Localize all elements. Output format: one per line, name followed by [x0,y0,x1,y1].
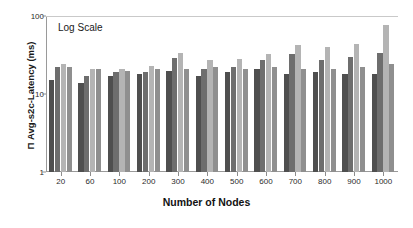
latency-bar-chart: Π Avg-s2c-Latency (ms) 110100 Log Scale … [0,0,413,228]
bar [137,74,142,172]
bar [90,69,95,172]
bar-group [78,16,101,172]
bar [313,72,318,172]
x-tick-label: 600 [259,177,272,186]
x-tick-label: 800 [318,177,331,186]
bar-group [166,16,189,172]
y-tick-label: 100 [0,12,44,21]
x-tick-mark [354,172,355,176]
bar [78,83,83,172]
bar [67,67,72,172]
bar [372,74,377,172]
bar-group [372,16,395,172]
bar [225,72,230,172]
bar-group [108,16,131,172]
bar-group [137,16,160,172]
x-tick-mark [266,172,267,176]
bar [254,69,259,172]
x-tick-mark [149,172,150,176]
bar-group [284,16,307,172]
bar [260,60,265,172]
bar [319,60,324,172]
x-tick-mark [237,172,238,176]
bar [360,67,365,172]
bar [49,80,54,172]
bar-group [225,16,248,172]
bar [201,69,206,172]
x-tick-mark [119,172,120,176]
x-tick-label: 700 [289,177,302,186]
y-tick-label: 1 [0,168,44,177]
bar [96,69,101,172]
x-tick-label: 20 [56,177,65,186]
x-axis-title: Number of Nodes [0,196,413,208]
bar-group [342,16,365,172]
y-tick-label: 10 [0,90,44,99]
x-tick-mark [295,172,296,176]
bar [55,67,60,172]
bar [325,47,330,172]
x-tick-label: 60 [86,177,95,186]
x-tick-mark [178,172,179,176]
bar [272,67,277,172]
x-tick-label: 300 [171,177,184,186]
bar [284,74,289,172]
bar [113,72,118,172]
bar [348,57,353,172]
bar [84,76,89,172]
bar [143,72,148,172]
x-tick-label: 400 [201,177,214,186]
x-tick-mark [207,172,208,176]
x-tick-mark [325,172,326,176]
bar [342,74,347,172]
bar [243,69,248,172]
bar [377,53,382,172]
bar [155,69,160,172]
bar [289,54,294,172]
bar [149,66,154,172]
bar [213,67,218,172]
bar [301,69,306,172]
bar [383,25,388,172]
bar [172,58,177,172]
bar [389,64,394,172]
bar-group [49,16,72,172]
bar [231,67,236,172]
x-tick-mark [61,172,62,176]
bar [61,64,66,172]
bar [125,71,130,172]
bar [295,45,300,172]
bar [237,59,242,172]
bar [266,54,271,172]
bar-group [313,16,336,172]
bar [166,71,171,172]
bar-group [196,16,219,172]
bar [331,69,336,172]
bar [184,69,189,172]
x-tick-label: 900 [347,177,360,186]
bar-group [254,16,277,172]
x-tick-mark [90,172,91,176]
x-tick-label: 1000 [374,177,392,186]
x-tick-label: 500 [230,177,243,186]
x-tick-label: 100 [113,177,126,186]
bar [196,76,201,172]
x-tick-label: 200 [142,177,155,186]
bars-layer [46,16,398,172]
bar [178,53,183,172]
x-tick-mark [383,172,384,176]
bar [108,76,113,172]
bar [119,69,124,172]
bar [207,60,212,172]
bar [354,44,359,172]
